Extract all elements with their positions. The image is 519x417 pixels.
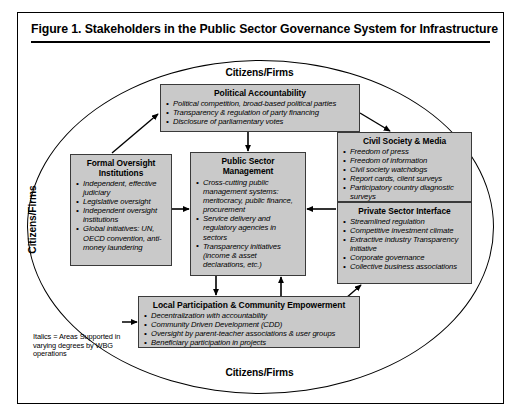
list-item: Oversight by parent-teacher associations… — [144, 329, 354, 338]
box-item-list: Independent, effective judiciary Legisla… — [76, 179, 166, 252]
list-item: Freedom of press — [343, 147, 466, 156]
box-title: Public Sector Management — [196, 156, 300, 176]
list-item: Competitive investment climate — [343, 226, 466, 235]
citizens-firms-label-top: Citizens/Firms — [0, 67, 519, 78]
list-item: Independent oversight institutions — [76, 206, 166, 224]
list-item: Community Driven Development (CDD) — [144, 320, 354, 329]
title-divider — [31, 41, 490, 43]
box-title: Political Accountability — [166, 88, 354, 98]
list-item: Beneficiary participation in projects — [144, 338, 354, 347]
box-item-list: Political competition, broad-based polit… — [166, 99, 354, 126]
box-title: Local Participation & Community Empowerm… — [144, 300, 354, 310]
list-item: Service delivery and regulatory agencies… — [196, 214, 300, 241]
box-title: Formal Oversight Institutions — [76, 158, 166, 178]
citizens-firms-label-bottom: Citizens/Firms — [0, 367, 519, 378]
box-item-list: Freedom of press Freedom of information … — [343, 147, 466, 202]
list-item: Transparency initiatives (income & asset… — [196, 242, 300, 269]
box-title: Private Sector Interface — [343, 206, 466, 216]
box-formal-oversight-institutions[interactable]: Formal Oversight Institutions Independen… — [70, 154, 172, 266]
list-item: Freedom of information — [343, 156, 466, 165]
box-civil-society-media[interactable]: Civil Society & Media Freedom of press F… — [337, 132, 472, 202]
list-item: Cross-cutting public management systems:… — [196, 178, 300, 214]
list-item: Participatory country diagnostic surveys — [343, 183, 466, 201]
box-political-accountability[interactable]: Political Accountability Political compe… — [160, 84, 360, 132]
list-item: Legislative oversight — [76, 197, 166, 206]
list-item: Political competition, broad-based polit… — [166, 99, 354, 108]
list-item: Independent, effective judiciary — [76, 179, 166, 197]
figure-title: Figure 1. Stakeholders in the Public Sec… — [31, 22, 491, 36]
citizens-firms-label-left: Citizens/Firms — [27, 170, 38, 270]
box-public-sector-management[interactable]: Public Sector Management Cross-cutting p… — [190, 152, 306, 276]
box-item-list: Decentralization with accountability Com… — [144, 311, 354, 347]
list-item: Report cards, client surveys — [343, 174, 466, 183]
list-item: Civil society watchdogs — [343, 165, 466, 174]
list-item: Disclosure of parliamentary votes — [166, 117, 354, 126]
list-item: Corporate governance — [343, 253, 466, 262]
figure-page: Figure 1. Stakeholders in the Public Sec… — [0, 0, 519, 417]
list-item: Streamlined regulation — [343, 217, 466, 226]
list-item: Extractive industry Transparency initiat… — [343, 235, 466, 253]
box-local-participation-community-empowerment[interactable]: Local Participation & Community Empowerm… — [138, 296, 360, 348]
box-item-list: Cross-cutting public management systems:… — [196, 178, 300, 269]
list-item: Global initiatives: UN, OECD convention,… — [76, 224, 166, 251]
box-private-sector-interface[interactable]: Private Sector Interface Streamlined reg… — [337, 202, 472, 284]
list-item: Decentralization with accountability — [144, 311, 354, 320]
list-item: Collective business associations — [343, 262, 466, 271]
box-title: Civil Society & Media — [343, 136, 466, 146]
list-item: Transparency & regulation of party finan… — [166, 108, 354, 117]
legend-note: Italics = Areas Supported in varying deg… — [33, 333, 129, 359]
box-item-list: Streamlined regulation Competitive inves… — [343, 217, 466, 272]
